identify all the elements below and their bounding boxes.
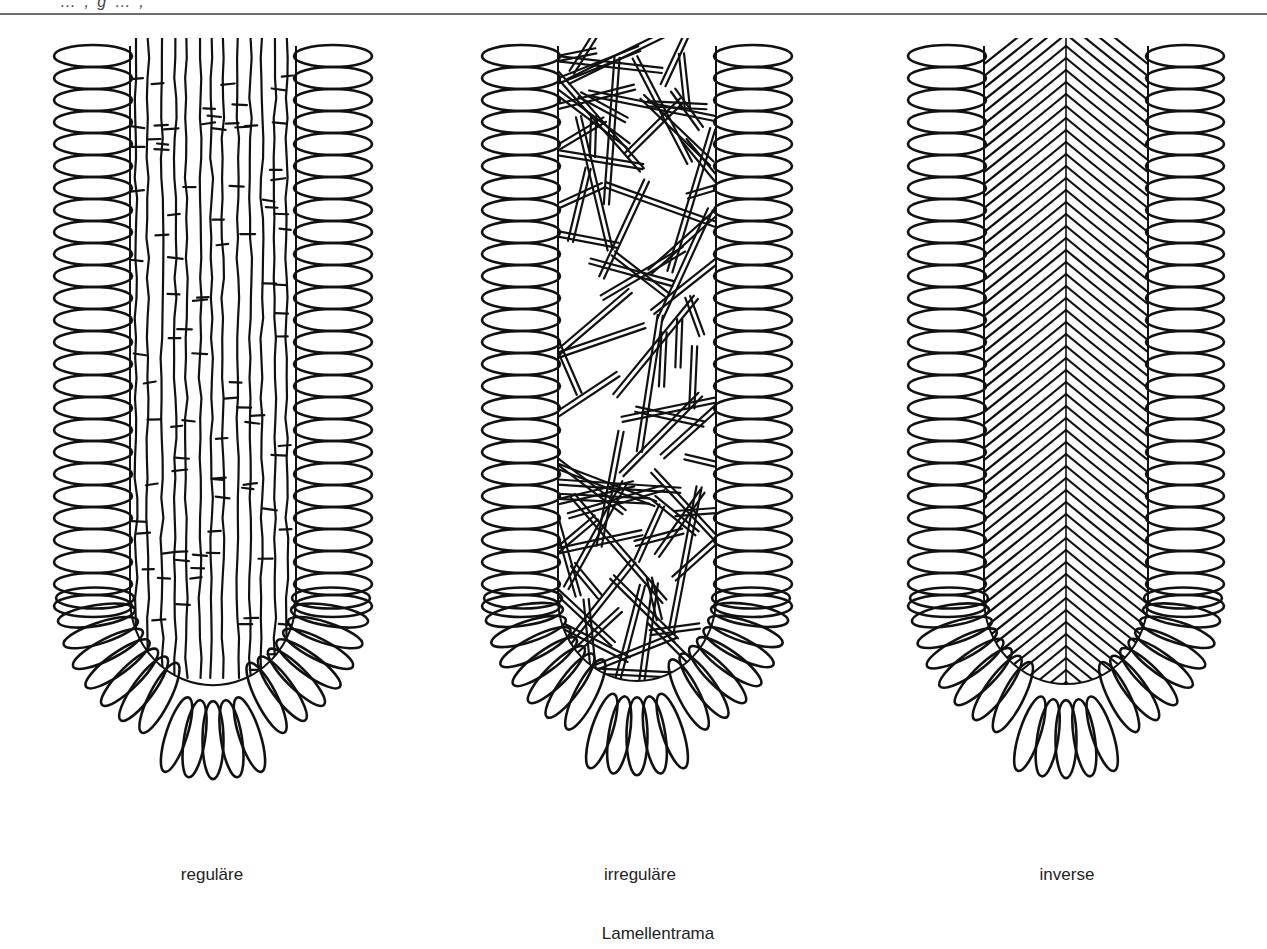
caption-inverse: inverse	[967, 865, 1167, 885]
caption-regular: reguläre	[112, 865, 312, 885]
figure-title: Lamellentrama	[558, 924, 758, 944]
caption-irregular: irreguläre	[540, 865, 740, 885]
trama-drawing-irregular	[476, 38, 798, 838]
top-rule	[0, 13, 1267, 15]
trama-drawing-regular	[48, 38, 378, 838]
cropped-header-text: … , g … ,	[60, 0, 146, 11]
trama-drawing-inverse	[902, 38, 1230, 838]
